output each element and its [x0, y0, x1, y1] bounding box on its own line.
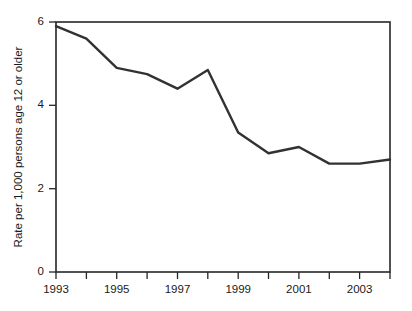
chart-canvas: 0 2 4 6 Rate per 1,000 persons age 12 or…: [0, 0, 412, 311]
x-tick-label-1995: 1995: [104, 283, 130, 295]
x-tick-label-2003: 2003: [347, 283, 373, 295]
line-chart-figure: 0 2 4 6 Rate per 1,000 persons age 12 or…: [0, 0, 412, 311]
x-tick-label-2001: 2001: [286, 283, 312, 295]
chart-background: [0, 0, 412, 311]
y-tick-label-2: 2: [38, 182, 44, 194]
y-axis-title: Rate per 1,000 persons age 12 or older: [12, 46, 24, 247]
y-tick-label-6: 6: [38, 15, 44, 27]
x-tick-label-1999: 1999: [225, 283, 251, 295]
y-tick-label-0: 0: [38, 265, 44, 277]
y-tick-label-4: 4: [38, 98, 45, 110]
x-tick-label-1993: 1993: [43, 283, 69, 295]
x-tick-label-1997: 1997: [165, 283, 191, 295]
